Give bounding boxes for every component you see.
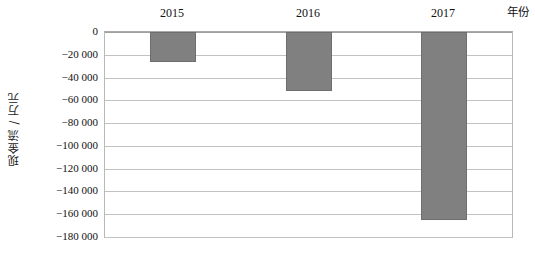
- y-axis-title-text: 现金流 / 万元: [6, 91, 22, 166]
- category-axis-labels: 201520162017: [104, 0, 513, 31]
- category-label-2017: 2017: [431, 7, 455, 19]
- cash-flow-bar-chart: 现金流 / 万元 0−20 000−40 000−60 000−80 000−1…: [0, 0, 535, 257]
- bar-2015: [150, 32, 196, 62]
- y-axis-tick-labels: 0−20 000−40 000−60 000−80 000−100 000−12…: [26, 0, 98, 257]
- y-axis-tick-label: −120 000: [56, 162, 98, 173]
- bar-2016: [286, 32, 332, 91]
- plot-area: [104, 31, 513, 238]
- y-axis-tick-label: −100 000: [56, 139, 98, 150]
- x-axis-title: 年份: [507, 7, 529, 19]
- y-axis-tick-label: −20 000: [62, 48, 98, 59]
- y-axis-tick-label: −180 000: [56, 231, 98, 242]
- y-axis-tick-label: −40 000: [62, 71, 98, 82]
- y-axis-tick-label: −80 000: [62, 117, 98, 128]
- category-label-2016: 2016: [296, 7, 320, 19]
- y-axis-tick-label: −60 000: [62, 94, 98, 105]
- y-axis-tick-label: 0: [93, 26, 99, 37]
- y-axis-tick-label: −160 000: [56, 208, 98, 219]
- y-axis-tick-label: −140 000: [56, 185, 98, 196]
- gridline: [105, 237, 512, 238]
- bar-2017: [421, 32, 467, 220]
- category-label-2015: 2015: [160, 7, 184, 19]
- y-axis-title: 现金流 / 万元: [2, 0, 26, 257]
